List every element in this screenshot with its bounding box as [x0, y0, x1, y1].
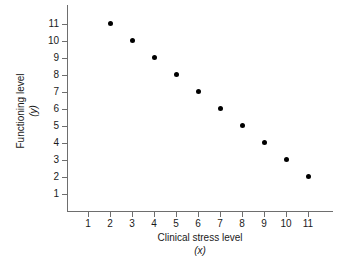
y-axis-title: Functioning level (y)	[14, 26, 40, 196]
data-point	[262, 140, 267, 145]
x-axis-title-text: Clinical stress level	[67, 231, 333, 244]
data-point	[108, 21, 113, 26]
data-point	[284, 157, 289, 162]
y-axis-title-text: Functioning level	[14, 26, 27, 196]
data-point	[196, 89, 201, 94]
scatter-plot-figure: 1234567891011 1234567891011 Clinical str…	[0, 0, 355, 266]
data-points-layer	[0, 0, 355, 266]
data-point	[152, 55, 157, 60]
data-point	[218, 106, 223, 111]
x-axis-variable: (x)	[67, 244, 333, 257]
data-point	[174, 72, 179, 77]
data-point	[130, 38, 135, 43]
x-axis-title: Clinical stress level (x)	[67, 231, 333, 257]
data-point	[306, 174, 311, 179]
data-point	[240, 123, 245, 128]
y-axis-variable: (y)	[27, 26, 40, 196]
